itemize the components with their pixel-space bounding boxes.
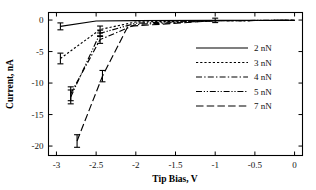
- y-axis-tick-labels: 0-5-10-15-20: [32, 15, 45, 151]
- x-axis-ticks: [56, 13, 294, 156]
- figure-container: -3-2.5-2-1.5-1-0.50 0-5-10-15-20 2 nN3 n…: [0, 0, 316, 190]
- legend-label-4-nn: 4 nN: [254, 72, 272, 82]
- legend-label-2-nn: 2 nN: [254, 43, 272, 53]
- y-tick-label-1: -5: [36, 47, 44, 57]
- y-tick-label-4: -20: [32, 141, 44, 151]
- legend-label-3-nn: 3 nN: [254, 58, 272, 68]
- legend-label-7-nn: 7 nN: [254, 101, 272, 111]
- error-bar-1-0: [57, 53, 63, 64]
- chart-legend: 2 nN3 nN4 nN5 nN7 nN: [196, 43, 272, 111]
- x-axis-tick-labels: -3-2.5-2-1.5-1-0.50: [53, 160, 298, 170]
- x-axis-title: Tip Bias, V: [152, 174, 197, 184]
- plot-frame: [49, 13, 303, 156]
- y-axis-ticks: [49, 20, 303, 146]
- x-tick-label-1: -2.5: [89, 160, 104, 170]
- line-chart: -3-2.5-2-1.5-1-0.50 0-5-10-15-20 2 nN3 n…: [0, 0, 316, 190]
- x-tick-label-4: -1: [211, 160, 219, 170]
- y-tick-label-3: -15: [32, 110, 44, 120]
- y-axis-title: Current, nA: [5, 59, 15, 109]
- x-tick-label-6: 0: [292, 160, 297, 170]
- x-tick-label-0: -3: [53, 160, 61, 170]
- x-tick-label-3: -1.5: [168, 160, 183, 170]
- legend-label-5-nn: 5 nN: [254, 87, 272, 97]
- y-tick-label-2: -10: [32, 78, 44, 88]
- x-tick-label-5: -0.5: [248, 160, 263, 170]
- error-bars-group: [57, 18, 218, 147]
- y-tick-label-0: 0: [39, 15, 44, 25]
- x-tick-label-2: -2: [132, 160, 140, 170]
